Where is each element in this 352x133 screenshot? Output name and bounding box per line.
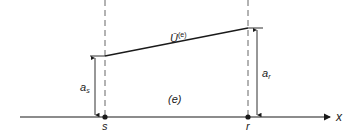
height-label-s-sub: s — [86, 87, 90, 94]
x-axis-label: x — [335, 110, 343, 124]
function-label-base: Ū — [170, 32, 178, 44]
height-dimension-s — [90, 56, 105, 115]
height-dimension-r — [248, 28, 263, 115]
element-diagram: x s r Ū(e) (e) as ar — [0, 0, 352, 133]
node-r-label: r — [246, 120, 251, 132]
function-label-sup: (e) — [178, 31, 187, 39]
node-r-point — [245, 114, 250, 119]
height-label-s: as — [80, 81, 90, 94]
height-label-r-sub: r — [268, 73, 271, 80]
element-label: (e) — [168, 93, 182, 105]
height-label-r: ar — [262, 67, 271, 80]
node-s-point — [102, 114, 107, 119]
node-s-label: s — [102, 120, 108, 132]
